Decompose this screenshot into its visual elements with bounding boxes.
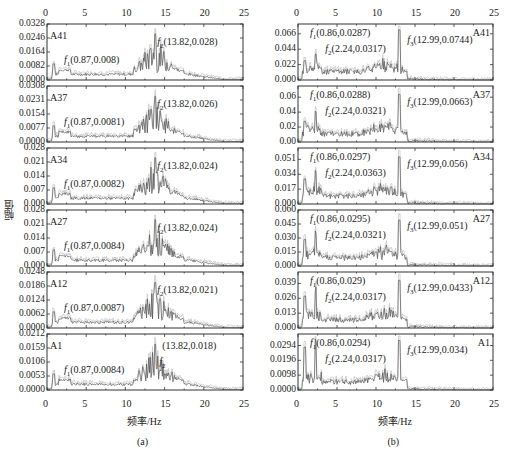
peak-value: (12.99,0.051) — [413, 220, 467, 231]
peak-value: (0.87,0.0084) — [70, 240, 124, 251]
y-tick-label: 0.0098 — [270, 369, 296, 379]
peak-annotation-f2: f2(13.82,0.026) — [157, 98, 217, 112]
peak-annotation-f1: f1(0.86,0.0294) — [310, 337, 370, 351]
y-tick-label: 0.007 — [24, 246, 45, 256]
y-tick-label: 0.0248 — [19, 266, 45, 276]
x-tick-label: 15 — [161, 7, 171, 18]
peak-value: (2.24,0.0317) — [332, 353, 386, 364]
peak-value: (12.99,0.0744) — [413, 34, 472, 45]
peak-annotation-f1: f1(0.86,0.0288) — [310, 89, 370, 103]
panel-A27 — [47, 210, 243, 266]
x-tick-label: 0 — [43, 398, 48, 409]
y-tick-label: 0.06 — [279, 91, 296, 101]
x-tick-label: 5 — [333, 7, 338, 18]
peak-annotation-f2: f2(2.24,0.0317) — [325, 291, 385, 305]
y-tick-label: 0.000 — [275, 260, 296, 270]
y-tick-label: 0.0212 — [19, 328, 45, 338]
y-tick-label: 0.017 — [275, 183, 296, 193]
y-tick-label: 0.0246 — [19, 32, 45, 42]
peak-value: (0.87,0.0082) — [70, 178, 124, 189]
peak-value: (12.99,0.034) — [413, 344, 467, 355]
y-tick-label: 0.000 — [275, 74, 296, 84]
plot-frame — [47, 210, 243, 266]
y-tick-label: 0.007 — [24, 184, 45, 194]
x-tick-label: 5 — [333, 398, 338, 409]
panel-name: A27 — [50, 216, 67, 227]
peak-annotation-f2: f2(2.24,0.0317) — [325, 43, 385, 57]
peak-value: (13.82,0.021) — [163, 284, 217, 295]
y-tick-label: 0.0077 — [19, 122, 45, 132]
panel-name: A34 — [473, 151, 490, 162]
x-axis-label: 频率/Hz — [378, 413, 412, 428]
peak-value: (0.86,0.0288) — [316, 89, 370, 100]
x-tick-label: 25 — [489, 398, 499, 409]
x-tick-label: 15 — [411, 7, 421, 18]
y-tick-label: 0.034 — [275, 168, 296, 178]
y-tick-label: 0.00 — [279, 136, 296, 146]
peak-annotation-f1: f1(0.86,0.0297) — [310, 151, 370, 165]
peak-annotation-f3: f3(12.99,0.0744) — [407, 34, 472, 48]
peak-annotation-f1: f1(0.86,0.0287) — [310, 27, 370, 41]
peak-value: (2.24,0.0317) — [332, 291, 386, 302]
y-tick-label: 0.0000 — [270, 384, 296, 394]
panel-name: A1 — [50, 340, 62, 351]
x-tick-label: 25 — [239, 398, 249, 409]
peak-value: (0.86,0.029) — [316, 275, 365, 286]
y-tick-label: 0.000 — [275, 322, 296, 332]
peak-value: (0.86,0.0295) — [316, 213, 370, 224]
y-tick-label: 0.028 — [24, 142, 45, 152]
y-tick-label: 0.0186 — [19, 280, 45, 290]
y-tick-label: 0.022 — [275, 59, 296, 69]
panel-name: A34 — [50, 154, 67, 165]
x-tick-label: 0 — [43, 7, 48, 18]
y-tick-label: 0.0164 — [19, 46, 45, 56]
peak-value: (13.82,0.024) — [163, 222, 217, 233]
y-tick-label: 0.014 — [24, 232, 45, 242]
panel-name: A1 — [478, 337, 490, 348]
y-axis-label: 幅值 — [2, 200, 17, 220]
figure-a: 005510101515202025250.00000.00820.01640.… — [0, 0, 253, 459]
peak-value: (12.99,0.0663) — [413, 96, 472, 107]
y-tick-label: 0.014 — [24, 170, 45, 180]
x-tick-label: 15 — [411, 398, 421, 409]
y-tick-label: 0.026 — [275, 292, 296, 302]
peak-value: (0.86,0.0294) — [316, 337, 370, 348]
peak-annotation-f1: f1(0.87,0.0084) — [64, 364, 124, 378]
peak-value: (2.24,0.0321) — [332, 229, 386, 240]
peak-value: (0.87,0.0087) — [70, 302, 124, 313]
x-tick-label: 10 — [372, 7, 382, 18]
peak-annotation-f1: f1(0.87,0.0084) — [64, 240, 124, 254]
y-tick-label: 0.028 — [24, 204, 45, 214]
panel-name: A12 — [50, 278, 67, 289]
panel-name: A12 — [473, 275, 490, 286]
peak-annotation-f2: f2(2.24,0.0317) — [325, 353, 385, 367]
y-tick-label: 0.0124 — [19, 294, 45, 304]
y-tick-label: 0.060 — [275, 204, 296, 214]
panel-name: A41 — [50, 30, 67, 41]
peak-annotation-f2: f2 — [159, 356, 165, 370]
y-tick-label: 0.0106 — [19, 356, 45, 366]
y-tick-label: 0.045 — [275, 218, 296, 228]
x-tick-label: 5 — [82, 398, 87, 409]
plot-frame — [47, 272, 243, 328]
peak-annotation-f3: f3(12.99,0.0433) — [407, 282, 472, 296]
peak-value: (12.99,0.056) — [413, 158, 467, 169]
panel-A41 — [47, 24, 243, 80]
peak-annotation-f1: f1(0.86,0.0295) — [310, 213, 370, 227]
x-tick-label: 10 — [121, 398, 131, 409]
peak-value: (13.82,0.018) — [162, 340, 216, 351]
peak-annotation-f2: f2(2.24,0.0321) — [325, 229, 385, 243]
peak-annotation-f2: f2(13.82,0.024) — [157, 160, 217, 174]
figure-caption: (b) — [388, 436, 400, 447]
panel-name: A37 — [50, 92, 67, 103]
x-axis-label: 频率/Hz — [127, 413, 161, 428]
figure-b: 005510101515202025250.0000.0220.0440.066… — [253, 0, 506, 459]
panel-name: A41 — [473, 27, 490, 38]
peak-value: (0.87,0.008) — [70, 54, 119, 65]
x-tick-label: 20 — [200, 7, 210, 18]
y-tick-label: 0.015 — [275, 246, 296, 256]
panel-A34 — [47, 148, 243, 204]
peak-value: (13.82,0.024) — [163, 160, 217, 171]
y-tick-label: 0.0294 — [270, 340, 296, 350]
panel-A12 — [47, 272, 243, 328]
